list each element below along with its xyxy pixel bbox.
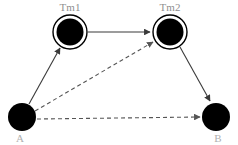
- node-tm2-label: Tm2: [160, 1, 181, 13]
- node-b[interactable]: B: [202, 103, 230, 144]
- node-tm2-core: [157, 19, 184, 46]
- node-group: Tm1 Tm2 A B: [8, 1, 230, 144]
- node-b-label: B: [214, 132, 221, 144]
- node-a-core: [8, 103, 36, 131]
- edge-a-to-b: [37, 117, 200, 119]
- node-a[interactable]: A: [8, 103, 36, 144]
- edge-tm2-to-b: [180, 47, 210, 101]
- edge-a-to-tm1: [29, 48, 60, 104]
- node-tm1[interactable]: Tm1: [53, 1, 87, 49]
- node-tm1-core: [57, 19, 84, 46]
- node-a-label: A: [16, 132, 24, 144]
- node-b-core: [202, 103, 230, 131]
- diagram-canvas: Tm1 Tm2 A B: [0, 0, 238, 145]
- graph-svg: Tm1 Tm2 A B: [0, 0, 238, 145]
- node-tm1-label: Tm1: [60, 1, 81, 13]
- edge-group: [29, 32, 210, 119]
- edge-a-to-tm2: [35, 42, 153, 111]
- node-tm2[interactable]: Tm2: [153, 1, 187, 49]
